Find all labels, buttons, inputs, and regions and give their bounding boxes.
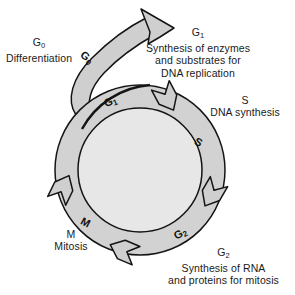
annotation-g2-title: G2 [152,246,295,262]
annotation-m-line1: Mitosis [36,240,106,252]
annotation-g1-line3: DNA replication [113,67,283,79]
annotation-s-line1: DNA synthesis [196,106,294,118]
annotation-g1: G1 Synthesis of enzymes and substrates f… [113,26,283,79]
annotation-g0-line1: Differentiation [6,52,72,64]
annotation-s-title: S [196,94,294,106]
annotation-g0: G0 Differentiation [6,36,72,64]
cell-cycle-diagram: G0 G1 S G2 M G0 Differentiation G1 Synth… [0,0,295,295]
annotation-g2-line2: and proteins for mitosis [152,274,295,286]
annotation-g1-line2: and substrates for [113,54,283,66]
annotation-s: S DNA synthesis [196,94,294,119]
annotation-m-title: M [36,228,106,240]
annotation-g1-line1: Synthesis of enzymes [113,42,283,54]
annotation-m: M Mitosis [36,228,106,253]
annotation-g1-title: G1 [113,26,283,42]
annotation-g0-title: G0 [6,36,72,52]
annotation-g2: G2 Synthesis of RNA and proteins for mit… [152,246,295,287]
annotation-g2-line1: Synthesis of RNA [152,262,295,274]
